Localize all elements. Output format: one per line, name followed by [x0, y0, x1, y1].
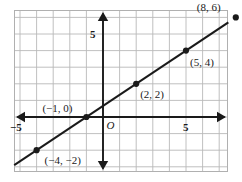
origin-label: O: [107, 119, 115, 131]
point-label-1: (−1, 0): [42, 102, 72, 115]
x-tick-label--5: −5: [10, 121, 22, 133]
point-label-2: (2, 2): [140, 88, 164, 101]
data-point-2: [133, 81, 139, 87]
x-tick-label-5: 5: [183, 121, 189, 133]
data-point-1: [83, 114, 89, 120]
coordinate-graph-figure: (−4, −2)(−1, 0)(2, 2)(5, 4)(8, 6)−555O: [0, 0, 242, 182]
point-label-4: (8, 6): [197, 1, 221, 14]
y-tick-label-5: 5: [90, 28, 96, 40]
data-point-0: [34, 147, 40, 153]
data-point-3: [183, 48, 189, 54]
point-label-3: (5, 4): [190, 56, 214, 69]
point-label-0: (−4, −2): [45, 154, 82, 167]
graph-canvas: (−4, −2)(−1, 0)(2, 2)(5, 4)(8, 6)−555O: [0, 0, 242, 182]
data-point-4: [233, 14, 239, 20]
